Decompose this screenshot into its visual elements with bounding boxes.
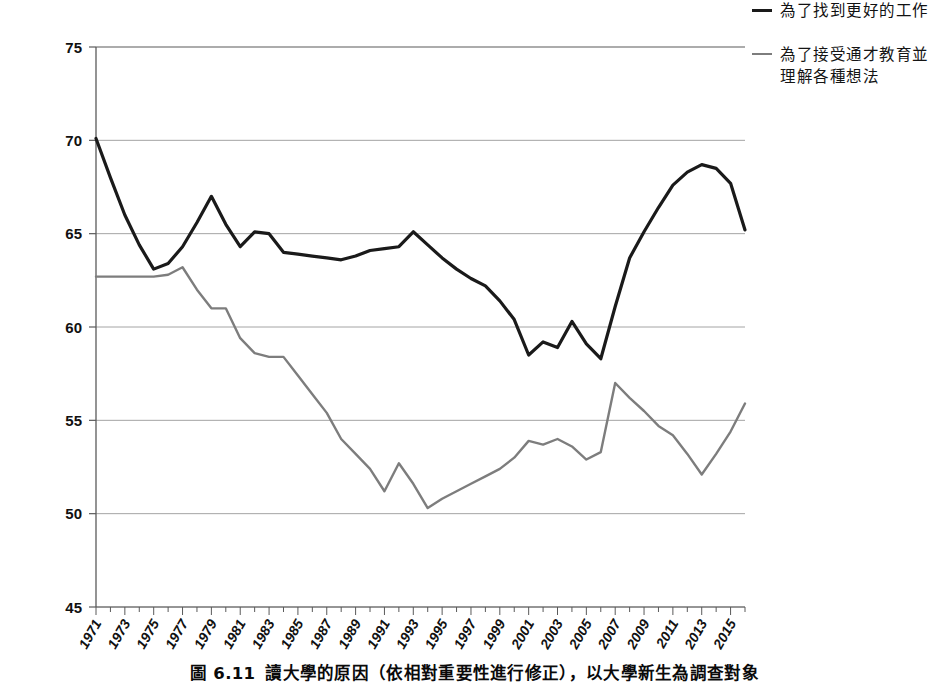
x-tick-label-1971: 1971 xyxy=(75,616,105,651)
x-tick-label-2011: 2011 xyxy=(652,616,682,651)
gridlines xyxy=(96,47,745,607)
x-tick-label-1987: 1987 xyxy=(306,615,336,651)
x-tick-label-1991: 1991 xyxy=(364,616,394,651)
x-tick-label-2001: 2001 xyxy=(507,616,537,652)
y-tick-label-50: 50 xyxy=(65,505,82,522)
y-tick-label-55: 55 xyxy=(65,412,82,429)
series-line-better-job xyxy=(96,138,745,358)
x-tick-label-2005: 2005 xyxy=(565,616,595,652)
x-tick-label-1979: 1979 xyxy=(191,616,221,651)
y-tick-label-60: 60 xyxy=(65,319,82,336)
y-tick-label-65: 65 xyxy=(65,225,82,242)
x-tick-label-1977: 1977 xyxy=(162,615,192,651)
figure-caption-text: 讀大學的原因（依相對重要性進行修正），以大學新生為調查對象 xyxy=(265,664,759,683)
x-tick-label-1993: 1993 xyxy=(392,616,422,651)
x-tick-label-1985: 1985 xyxy=(277,616,307,651)
series-line-general-education xyxy=(96,267,745,508)
x-tick-label-1995: 1995 xyxy=(421,616,451,651)
y-tick-label-75: 75 xyxy=(65,39,82,56)
data-series xyxy=(96,138,745,508)
figure-container: 75706560555045 1971197319751977197919811… xyxy=(0,0,949,694)
x-tick-label-2007: 2007 xyxy=(594,615,625,652)
x-tick-label-1989: 1989 xyxy=(335,616,365,651)
x-tick-label-1983: 1983 xyxy=(248,616,278,651)
x-tick-label-2009: 2009 xyxy=(623,616,653,652)
x-tick-label-2003: 2003 xyxy=(536,616,566,652)
x-tick-label-1973: 1973 xyxy=(104,616,134,651)
y-tick-label-45: 45 xyxy=(65,599,82,616)
x-tick-label-1999: 1999 xyxy=(479,616,509,651)
legend-label-better-job: 為了找到更好的工作 xyxy=(780,2,929,20)
x-tick-label-2013: 2013 xyxy=(680,616,710,652)
x-axis-tick-labels: 1971197319751977197919811983198519871989… xyxy=(75,615,739,652)
y-axis-tick-labels: 75706560555045 xyxy=(65,39,82,616)
legend-label-general-education: 為了接受通才教育並理解各種想法 xyxy=(780,46,929,86)
figure-number: 圖 6.11 xyxy=(190,664,255,683)
x-tick-label-1997: 1997 xyxy=(450,615,480,651)
chart-legend: 為了找到更好的工作 為了接受通才教育並理解各種想法 xyxy=(752,0,942,110)
legend-item-better-job: 為了找到更好的工作 xyxy=(752,0,942,22)
y-tick-label-70: 70 xyxy=(65,132,82,149)
legend-item-general-education: 為了接受通才教育並理解各種想法 xyxy=(752,44,942,88)
legend-line-swatch-gray xyxy=(752,53,772,55)
legend-line-swatch-black xyxy=(752,9,772,12)
figure-caption: 圖 6.11讀大學的原因（依相對重要性進行修正），以大學新生為調查對象 xyxy=(0,660,949,684)
x-tick-label-2015: 2015 xyxy=(709,616,739,652)
x-tick-label-1975: 1975 xyxy=(133,616,163,651)
x-tick-label-1981: 1981 xyxy=(219,616,249,651)
x-axis-ticks xyxy=(96,607,745,615)
